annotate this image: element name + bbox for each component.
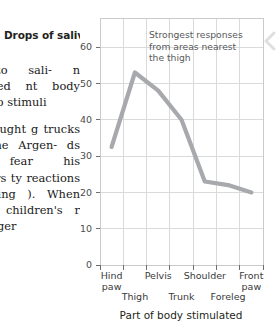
- y-tick-label: 0: [86, 259, 92, 270]
- y-tick-label: 20: [80, 187, 92, 198]
- x-tick-label: Hind: [101, 270, 123, 281]
- y-tick-label: 10: [80, 223, 92, 234]
- x-tick-label: Foreleg: [211, 291, 246, 302]
- y-tick-label: 50: [80, 78, 92, 89]
- chevron-left-icon: [266, 33, 274, 49]
- x-tick-label: Shoulder: [184, 270, 226, 281]
- annotation-line: the thigh: [149, 52, 191, 63]
- x-axis-title: Part of body stimulated: [120, 309, 243, 321]
- annotation-line: Strongest responses: [149, 29, 243, 40]
- y-tick-label: 60: [80, 41, 92, 52]
- y-tick-label: 30: [80, 150, 92, 161]
- x-axis-tick-labels: HindpawThighPelvisTrunkShoulderForelegFr…: [101, 270, 264, 302]
- y-tick-label: 40: [80, 114, 92, 125]
- x-tick-label: Pelvis: [145, 270, 172, 281]
- line-chart: 0102030405060 HindpawThighPelvisTrunkSho…: [0, 0, 277, 325]
- x-tick-label: paw: [242, 281, 262, 292]
- x-tick-label: Trunk: [168, 291, 195, 302]
- x-tick-label: Front: [239, 270, 263, 281]
- x-tick-label: paw: [102, 281, 122, 292]
- annotation-line: from areas nearest: [149, 41, 237, 52]
- y-axis-tick-labels: 0102030405060: [80, 41, 92, 270]
- y-axis-ticks: [96, 47, 100, 265]
- x-tick-label: Thigh: [121, 291, 149, 302]
